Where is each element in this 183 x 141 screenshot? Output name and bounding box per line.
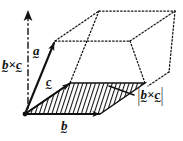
under-tilde-icon: ∼ <box>140 97 148 106</box>
label-b-cross-c-direction: b ∼ × c ∼ <box>2 58 22 73</box>
label-b-cross-c-magnitude: | b ∼ × c ∼ | <box>137 88 164 103</box>
side-edge-right <box>169 11 175 72</box>
side-edge-lower-right <box>148 72 169 86</box>
label-bxc-mag-c: c ∼ <box>155 88 161 103</box>
under-tilde-icon: ∼ <box>1 67 9 76</box>
normal-axis <box>24 10 33 108</box>
under-tilde-icon: ∼ <box>32 53 40 62</box>
side-edge-inner <box>70 11 99 83</box>
parallelepiped-top-face <box>55 11 175 41</box>
parallelepiped-side-edges <box>70 11 175 86</box>
under-tilde-icon: ∼ <box>60 128 68 137</box>
label-bxc-axis-b: b ∼ <box>2 58 9 73</box>
parallelepiped-diagram-svg <box>0 0 183 141</box>
abs-bar-close: | <box>161 84 164 104</box>
label-bxc-axis-c: c ∼ <box>16 58 22 73</box>
label-a-glyph-wrap: a ∼ <box>33 44 40 59</box>
label-vector-b: b ∼ <box>61 119 68 134</box>
top-edge-right <box>130 11 175 41</box>
label-vector-c: c ∼ <box>46 76 51 90</box>
figure-root: b ∼ × c ∼ | b ∼ × c ∼ | a ∼ c ∼ b ∼ <box>0 0 183 141</box>
under-tilde-icon: ∼ <box>15 67 23 76</box>
label-c-glyph-wrap: c ∼ <box>46 76 51 90</box>
top-edge-back-left <box>55 11 99 41</box>
under-tilde-icon: ∼ <box>45 84 53 93</box>
side-edge-mid <box>130 41 145 83</box>
origin-point <box>23 112 28 117</box>
base-parallelogram-hatched <box>25 83 145 114</box>
label-bxc-mag-b: b ∼ <box>141 88 148 103</box>
label-vector-a: a ∼ <box>33 44 40 59</box>
label-b-glyph-wrap: b ∼ <box>61 119 68 134</box>
